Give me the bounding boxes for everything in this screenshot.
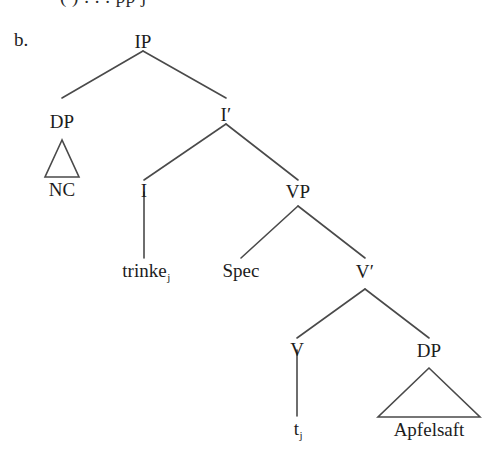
- edge-ibar-vp: [226, 124, 298, 180]
- node-dp-subject: DP: [50, 112, 74, 131]
- cropped-text-strip: ( ) . . . pp j: [0, 0, 500, 13]
- node-i-bar: I′: [220, 105, 231, 124]
- edge-ibar-i: [144, 124, 226, 180]
- triangle-apfelsaft: [378, 368, 480, 417]
- node-trinke-subscript: j: [167, 271, 170, 283]
- edge-vp-spec: [241, 206, 298, 258]
- node-ip: IP: [135, 32, 152, 51]
- triangle-nc: [45, 140, 79, 177]
- node-v-bar: V′: [356, 262, 374, 281]
- node-trace: tj: [294, 419, 302, 438]
- node-spec: Spec: [223, 261, 260, 280]
- edge-ip-dp: [62, 51, 143, 98]
- node-dp-object: DP: [417, 341, 441, 360]
- edge-vp-vbar: [298, 206, 365, 258]
- node-trinke-text: trinke: [122, 260, 166, 281]
- node-trinke: trinkej: [122, 261, 169, 280]
- node-trace-text: t: [294, 418, 299, 439]
- edge-ip-ibar: [143, 51, 226, 98]
- edge-vbar-dp: [365, 289, 429, 338]
- syntax-tree-figure: ( ) . . . pp j b.: [0, 0, 500, 467]
- node-i: I: [141, 181, 147, 200]
- node-nc: NC: [49, 180, 75, 199]
- item-label: b.: [14, 30, 28, 49]
- cropped-text-line: ( ) . . . pp j: [60, 0, 147, 8]
- node-v: V: [290, 340, 304, 359]
- node-trace-subscript: j: [300, 429, 303, 441]
- edge-vbar-v: [297, 289, 365, 338]
- tree-lines-layer: [0, 0, 500, 467]
- node-apfelsaft: Apfelsaft: [394, 420, 465, 439]
- node-vp: VP: [286, 182, 310, 201]
